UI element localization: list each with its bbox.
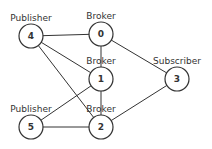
edge-2-3 [101,79,177,127]
node-1: 1Broker [86,56,116,91]
node-id: 2 [98,122,104,132]
node-id: 3 [174,74,180,84]
node-id: 4 [28,31,34,41]
edge-5-1 [31,79,101,127]
node-role-label: Broker [86,104,116,114]
node-0: 0Broker [86,11,116,46]
node-id: 5 [28,122,34,132]
node-3: 3Subscriber [153,56,201,91]
node-id: 1 [98,74,104,84]
node-4: 4Publisher [10,13,52,48]
node-role-label: Subscriber [153,56,201,66]
node-role-label: Publisher [10,104,52,114]
node-role-label: Publisher [10,13,52,23]
node-id: 0 [98,29,104,39]
node-5: 5Publisher [10,104,52,139]
node-role-label: Broker [86,11,116,21]
node-role-label: Broker [86,56,116,66]
node-2: 2Broker [86,104,116,139]
pubsub-network-diagram: 0Broker1Broker2Broker3Subscriber4Publish… [0,0,212,149]
